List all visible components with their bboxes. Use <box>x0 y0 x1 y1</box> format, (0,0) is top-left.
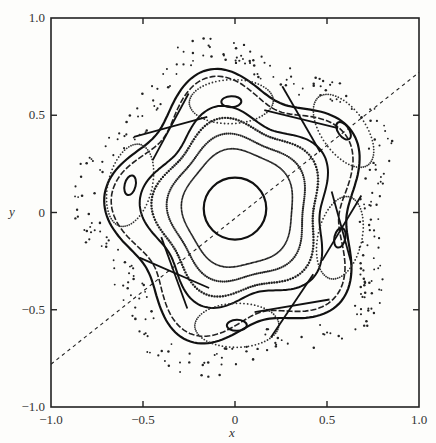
y-tick-label: 0 <box>39 205 46 220</box>
dotted-torus <box>180 148 293 268</box>
x-tick-label: 0.5 <box>319 412 335 427</box>
plot-data-layer <box>51 37 419 378</box>
chaotic-scatter <box>74 37 393 378</box>
hyperbolic-point <box>134 93 207 160</box>
y-tick-label: −1.0 <box>21 399 45 414</box>
x-tick-label: −0.5 <box>131 412 155 427</box>
poincare-section-chart: −1.0−0.500.51.0−1.0−0.500.51.0 x y <box>0 0 436 443</box>
resonance-island <box>300 83 387 179</box>
hyperbolic-point <box>264 86 338 152</box>
dotted-torus <box>166 132 307 282</box>
y-tick-label: −0.5 <box>21 302 45 317</box>
x-axis-label: x <box>228 425 235 440</box>
x-tick-label: 1.0 <box>411 412 427 427</box>
y-tick-label: 1.0 <box>29 10 45 25</box>
y-axis-label: y <box>7 204 15 219</box>
hyperbolic-point <box>322 191 361 264</box>
central-invariant-curve <box>204 178 267 240</box>
axis-ticks: −1.0−0.500.51.0−1.0−0.500.51.0 <box>21 10 427 427</box>
y-tick-label: 0.5 <box>29 107 45 122</box>
x-tick-label: −1.0 <box>39 412 63 427</box>
inner-separatrix <box>140 106 328 308</box>
